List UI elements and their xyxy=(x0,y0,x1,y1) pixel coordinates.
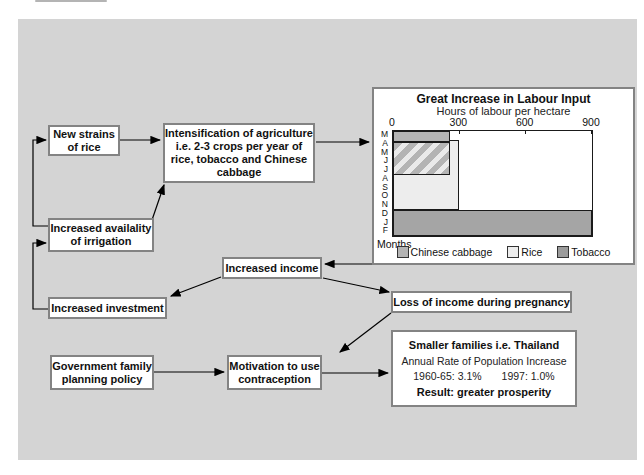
legend-swatch xyxy=(397,246,409,258)
month-label: F xyxy=(375,226,390,235)
x-tick-label-300: 300 xyxy=(450,116,468,128)
node-label: Increased income xyxy=(226,262,319,275)
cropped-text-artifact xyxy=(35,0,107,2)
node-label: Government family planning policy xyxy=(52,360,152,386)
node-label: Intensification of agriculture i.e. 2-3 … xyxy=(165,127,313,179)
chart-title: Great Increase in Labour Input xyxy=(374,92,633,106)
x-tick-mark xyxy=(591,131,592,134)
node-increased-investment: Increased investment xyxy=(48,297,167,319)
legend-item-tobacco: Tobacco xyxy=(557,246,610,258)
node-smaller-families-thailand: Smaller families i.e. Thailand Annual Ra… xyxy=(391,330,577,407)
population-increase-label: Annual Rate of Population Increase xyxy=(393,355,575,367)
node-increased-availality-of-irrigation: Increased availality of irrigation xyxy=(48,218,154,252)
node-government-family-planning-policy: Government family planning policy xyxy=(50,355,154,390)
population-rates-row: 1960-65: 3.1% 1997: 1.0% xyxy=(393,370,575,382)
node-increased-income: Increased income xyxy=(222,257,322,279)
node-label: Loss of income during pregnancy xyxy=(393,296,570,309)
chart-bar-chinese-cabbage xyxy=(393,131,450,142)
chart-bar-tobacco xyxy=(393,210,592,236)
x-tick-mark xyxy=(459,131,460,134)
legend-label: Chinese cabbage xyxy=(411,246,493,258)
legend-label: Rice xyxy=(521,246,542,258)
node-loss-of-income-during-pregnancy: Loss of income during pregnancy xyxy=(391,291,572,313)
x-tick-label-600: 600 xyxy=(516,116,534,128)
legend-label: Tobacco xyxy=(571,246,610,258)
rate-1960-65: 1960-65: 3.1% xyxy=(413,370,481,382)
rate-1997: 1997: 1.0% xyxy=(502,370,555,382)
node-motivation-to-use-contraception: Motivation to use contraception xyxy=(227,355,322,390)
chart-bar-chinese-cabbage-and-rice-overlap xyxy=(393,142,450,175)
chart-legend: Chinese cabbageRiceTobacco xyxy=(374,246,633,258)
labour-input-chart: Great Increase in Labour Input Hours of … xyxy=(372,87,635,265)
legend-item-chinese-cabbage: Chinese cabbage xyxy=(397,246,493,258)
chart-month-labels: MAMJJASONDJF xyxy=(375,130,390,235)
node-intensification-of-agriculture: Intensification of agriculture i.e. 2-3 … xyxy=(163,123,315,183)
x-tick-mark xyxy=(393,131,394,134)
node-label: New strains of rice xyxy=(53,128,115,154)
node-new-strains-of-rice: New strains of rice xyxy=(48,125,120,156)
x-tick-mark xyxy=(525,131,526,134)
chart-x-axis-ticks: 0300600900 xyxy=(392,116,591,127)
x-tick-label-900: 900 xyxy=(582,116,600,128)
node-label: Motivation to use contraception xyxy=(229,360,319,386)
legend-swatch xyxy=(507,246,519,258)
chart-plot-area xyxy=(392,130,593,237)
result-label: Result: greater prosperity xyxy=(393,386,575,398)
legend-swatch xyxy=(557,246,569,258)
legend-item-rice: Rice xyxy=(507,246,542,258)
figure-canvas: New strains of rice Intensification of a… xyxy=(0,0,644,475)
node-label: Increased investment xyxy=(51,302,164,315)
node-label: Increased availality of irrigation xyxy=(51,222,152,248)
x-tick-label-0: 0 xyxy=(389,116,395,128)
smaller-families-title: Smaller families i.e. Thailand xyxy=(393,339,575,351)
